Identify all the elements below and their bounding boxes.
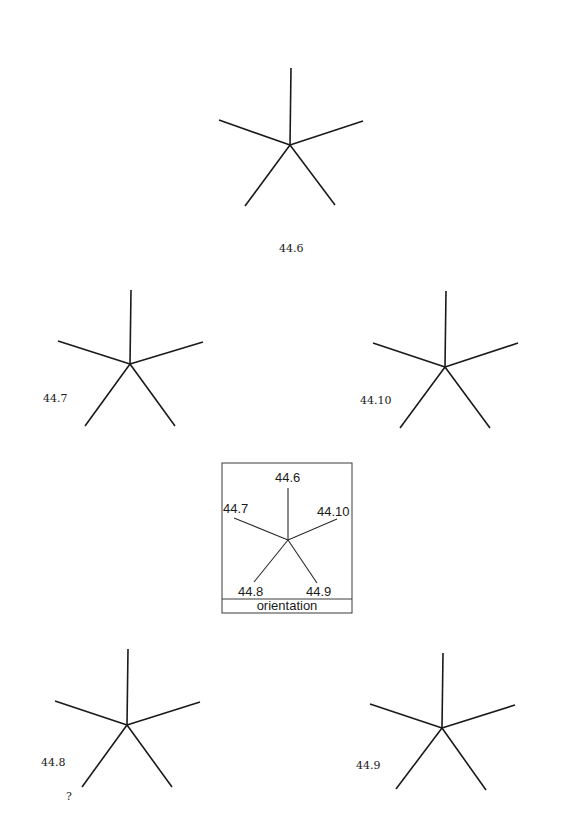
star-arm — [442, 653, 443, 728]
star-arm — [373, 343, 445, 367]
star-label: 44.6 — [279, 242, 304, 255]
star-arm — [370, 704, 442, 728]
star-view-44-9: 44.9 — [356, 653, 515, 790]
star-arm — [445, 343, 518, 367]
star-arm — [396, 728, 442, 789]
star-arm — [290, 145, 335, 205]
diagram-canvas: 44.644.744.1044.8?44.9 44.644.744.1044.8… — [0, 0, 562, 837]
orientation-arm — [288, 540, 317, 583]
orientation-arm-label: 44.10 — [317, 504, 350, 519]
star-arm — [130, 290, 131, 364]
star-label: 44.8 — [41, 756, 66, 769]
orientation-arm-label: 44.8 — [238, 584, 263, 599]
star-arm — [82, 725, 127, 787]
star-arm — [219, 120, 290, 145]
star-arm — [85, 364, 130, 426]
star-views: 44.644.744.1044.8?44.9 — [41, 68, 518, 803]
star-arm — [445, 291, 446, 367]
star-arm — [58, 341, 130, 364]
orientation-arm-label: 44.7 — [223, 501, 248, 516]
star-arm — [127, 649, 128, 725]
star-arm — [445, 367, 490, 428]
orientation-title: orientation — [257, 598, 318, 613]
star-arm — [245, 145, 290, 206]
star-arm — [400, 367, 445, 428]
orientation-arm — [254, 540, 288, 582]
orientation-key: 44.644.744.1044.844.9orientation — [222, 463, 352, 613]
star-arm — [130, 342, 203, 364]
star-view-44-7: 44.7 — [43, 290, 203, 426]
star-view-44-6: 44.6 — [219, 68, 363, 255]
star-arm — [290, 68, 291, 145]
star-arm — [55, 701, 127, 725]
orientation-arm-label: 44.6 — [275, 470, 300, 485]
star-arm — [290, 121, 363, 145]
orientation-arm-label: 44.9 — [306, 584, 331, 599]
star-arm — [130, 364, 175, 426]
question-mark-annotation: ? — [66, 790, 72, 803]
star-label: 44.9 — [356, 759, 381, 772]
orientation-arm — [234, 518, 288, 540]
star-arm — [442, 728, 486, 790]
star-label: 44.10 — [360, 394, 392, 407]
star-view-44-8: 44.8? — [41, 649, 200, 803]
star-arm — [127, 702, 200, 725]
star-arm — [442, 705, 515, 728]
star-view-44-10: 44.10 — [360, 291, 518, 428]
star-label: 44.7 — [43, 392, 68, 405]
orientation-arm — [288, 519, 337, 540]
star-arm — [127, 725, 172, 787]
